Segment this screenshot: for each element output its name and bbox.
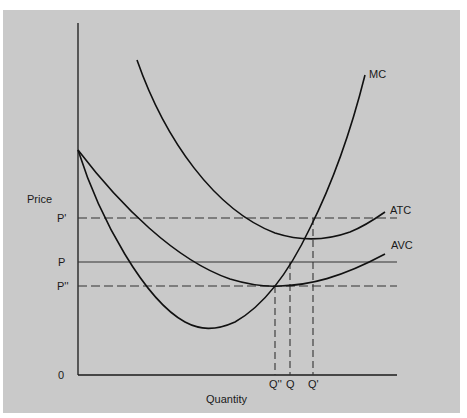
p-double-prime-label: P''	[57, 280, 69, 292]
avc-label: AVC	[391, 239, 413, 251]
origin-label: 0	[58, 369, 64, 381]
q-prime-label: Q'	[308, 378, 319, 390]
q-label: Q	[286, 378, 295, 390]
x-axis-label: Quantity	[206, 393, 247, 405]
p-label: P	[58, 256, 65, 268]
p-prime-label: P'	[57, 212, 66, 224]
atc-curve	[137, 60, 385, 239]
q-double-prime-label: Q''	[269, 378, 282, 390]
atc-label: ATC	[390, 204, 411, 216]
y-axis-label: Price	[27, 193, 52, 205]
cost-curves-chart: Price P' P P'' 0 Q'' Q Q' Quantity MC AT…	[0, 0, 467, 418]
mc-label: MC	[369, 68, 386, 80]
